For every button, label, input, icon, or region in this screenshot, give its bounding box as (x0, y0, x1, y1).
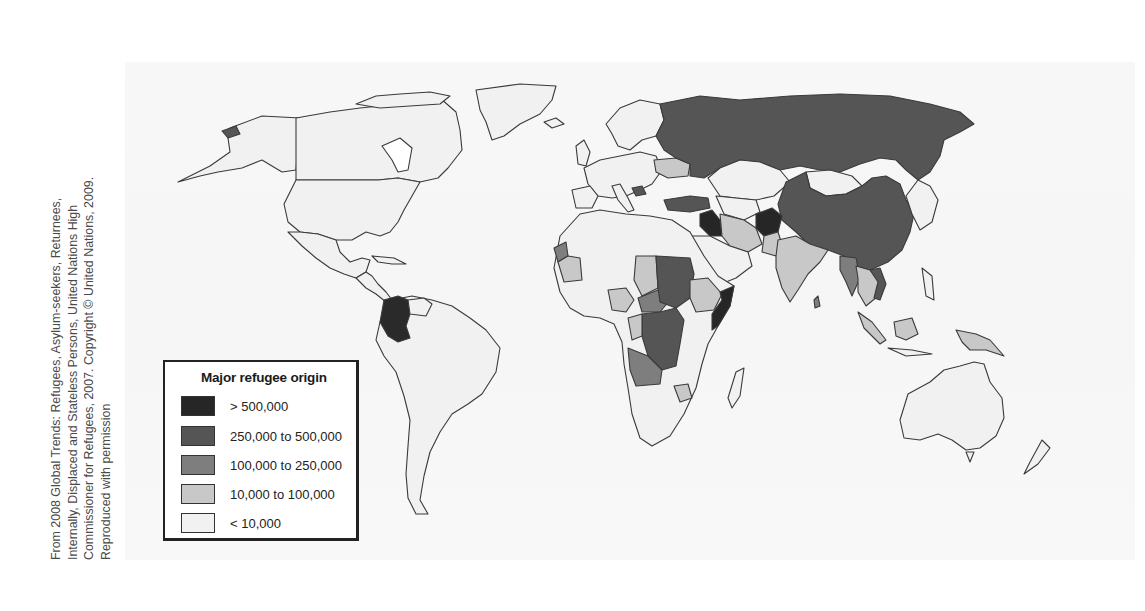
legend-swatch (181, 396, 215, 416)
region-tasmania (966, 452, 974, 462)
legend-item-250k-500k: 250,000 to 500,000 (181, 425, 342, 447)
region-myanmar (840, 256, 860, 296)
legend-label: > 500,000 (230, 399, 288, 414)
region-central-america (356, 272, 392, 302)
legend-title: Major refugee origin (201, 370, 327, 385)
region-iceland (544, 118, 564, 128)
legend-label: < 10,000 (230, 516, 281, 531)
region-new-zealand (1024, 440, 1050, 474)
region-uk (576, 140, 590, 166)
legend-swatch (181, 513, 215, 533)
legend-swatch (181, 426, 215, 446)
region-usa (284, 178, 420, 240)
region-australia (900, 362, 1004, 450)
legend-label: 10,000 to 100,000 (230, 487, 335, 502)
region-papua (956, 330, 1004, 356)
legend-label: 250,000 to 500,000 (230, 429, 342, 444)
region-iraq (700, 210, 722, 236)
map-legend: Major refugee origin > 500,000 250,000 t… (163, 360, 359, 541)
region-canada (296, 98, 462, 182)
region-sri-lanka (814, 296, 820, 308)
legend-swatch (181, 484, 215, 504)
region-mexico (288, 232, 370, 278)
legend-swatch (181, 455, 215, 475)
legend-item-under-10k: < 10,000 (181, 512, 281, 534)
region-cuba (372, 256, 406, 264)
legend-item-10k-100k: 10,000 to 100,000 (181, 483, 335, 505)
region-scandinavia (606, 100, 664, 150)
region-alaska (178, 116, 300, 182)
legend-item-over-500k: > 500,000 (181, 395, 288, 417)
region-madagascar (728, 368, 744, 408)
region-java (888, 348, 932, 356)
legend-label: 100,000 to 250,000 (230, 458, 342, 473)
region-borneo (894, 318, 918, 340)
region-philippines (922, 268, 934, 300)
region-turkey (664, 196, 710, 212)
legend-item-100k-250k: 100,000 to 250,000 (181, 454, 342, 476)
region-greenland (476, 84, 556, 140)
region-sumatra (858, 312, 886, 344)
region-russia (656, 94, 974, 180)
